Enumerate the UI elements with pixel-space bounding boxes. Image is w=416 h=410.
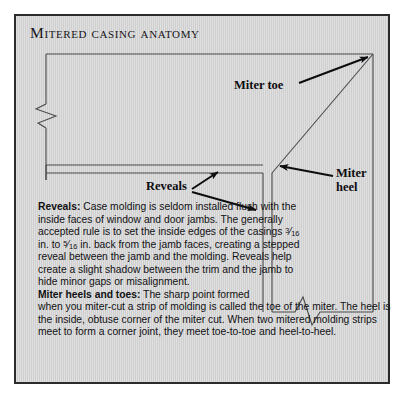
figure-body-text: Reveals: Case molding is seldom installe… [38, 201, 398, 339]
fraction-denominator: 16 [69, 242, 77, 251]
paragraph-reveals: Reveals: Case molding is seldom installe… [38, 201, 306, 289]
callout-miter-heel: Miter heel [336, 166, 367, 194]
callout-miter-heel-line1: Miter [336, 166, 367, 180]
callout-miter-heel-line2: heel [336, 180, 367, 194]
miter-lead: Miter heels and toes: [38, 289, 140, 300]
fraction-five-sixteenths: 5⁄16 [63, 239, 77, 252]
miter-cut-line [272, 54, 373, 173]
fraction-three-sixteenths: 3⁄16 [285, 226, 299, 239]
callout-miter-toe: Miter toe [234, 78, 283, 93]
reveals-leader-upper [192, 172, 218, 189]
head-casing-outline [36, 54, 373, 180]
miter-heel-leader [280, 166, 333, 176]
miter-text-first: The sharp point formed [140, 289, 249, 300]
reveals-lead: Reveals: [38, 201, 80, 212]
figure-panel: Mitered casing anatomy [14, 14, 390, 384]
paragraph-miter-heels-toes-first: Miter heels and toes: The sharp point fo… [38, 289, 306, 302]
fraction-denominator: 16 [291, 229, 299, 238]
reveals-text-b: in. to [38, 239, 63, 250]
paragraph-miter-heels-toes-rest: when you miter-cut a strip of molding is… [38, 301, 396, 339]
figure-page: Mitered casing anatomy [0, 0, 416, 410]
callout-reveals: Reveals [146, 179, 187, 194]
miter-toe-leader [299, 57, 368, 83]
